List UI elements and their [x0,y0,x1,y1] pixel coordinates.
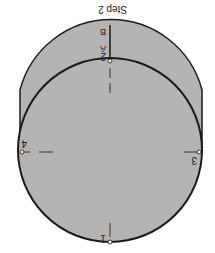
point-2 [108,59,112,63]
point-1 [108,240,112,244]
label-1: 1 [100,233,106,244]
label-b: B [100,27,106,37]
label-4: 4 [21,138,27,149]
step-diagram: 1 2 3 4 A B Step 2 [0,0,215,253]
point-4 [20,150,24,154]
step-title: Step 2 [98,4,127,15]
label-3: 3 [191,155,197,166]
label-a: A [100,44,106,54]
point-3 [197,150,201,154]
